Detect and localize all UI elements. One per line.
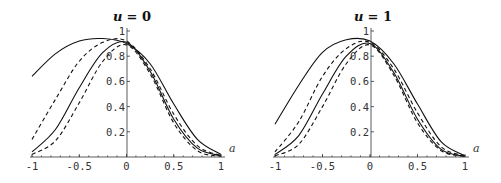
curve-dashed-2: [32, 45, 221, 157]
curve-dashed-1: [275, 41, 465, 156]
y-tick-label: 0.2: [350, 126, 369, 138]
y-tick-label: 0.6: [106, 75, 125, 87]
y-tick-label: 0.4: [350, 101, 369, 113]
x-axis-label: a: [473, 142, 480, 155]
x-tick-label: -0.5: [67, 160, 92, 172]
y-tick-label: 0.2: [106, 126, 125, 138]
plot-u0: u= 0 -1-0.500.51 0.20.40.60.81 a: [26, 9, 236, 172]
x-tick-label: 0.5: [408, 160, 427, 172]
y-tick-label: 1: [119, 25, 125, 37]
plot-u1: u= 1 -1-0.500.51 0.20.40.60.81 a: [269, 9, 480, 172]
x-tick-label: 1: [218, 160, 224, 172]
figure: u= 0 -1-0.500.51 0.20.40.60.81 a u= 1 -1…: [0, 0, 501, 183]
x-tick-label: 0: [123, 160, 129, 172]
y-tick-label: 0.8: [106, 50, 125, 62]
y-ticks: 0.20.40.60.81: [350, 25, 374, 138]
plot-title: u= 0: [113, 9, 151, 24]
x-axis-label: a: [229, 142, 236, 155]
y-tick-label: 0.4: [106, 101, 125, 113]
curve-solid-2: [275, 43, 465, 156]
curve-solid-1: [32, 38, 221, 154]
y-tick-label: 1: [363, 25, 369, 37]
x-tick-label: 0.5: [164, 160, 183, 172]
curve-solid-2: [32, 41, 221, 155]
x-tick-label: -1: [269, 160, 282, 172]
curve-dashed-2: [275, 45, 465, 157]
y-tick-label: 0.8: [350, 50, 369, 62]
x-tick-label: 0: [367, 160, 373, 172]
x-tick-label: 1: [462, 160, 468, 172]
plot-title: u= 1: [354, 9, 392, 24]
curves: [275, 38, 465, 156]
curves: [32, 38, 221, 156]
curve-solid-1: [275, 38, 465, 155]
x-tick-label: -0.5: [310, 160, 335, 172]
x-tick-label: -1: [26, 160, 39, 172]
y-tick-label: 0.6: [350, 75, 369, 87]
curve-dashed-1: [32, 39, 221, 156]
